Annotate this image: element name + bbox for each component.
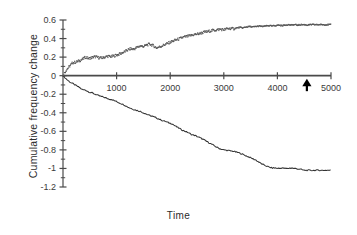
x-axis-tick-labels: 10002000300040005000 [0, 0, 357, 235]
x-tick-label: 4000 [257, 83, 297, 93]
chart-figure: Cumulative frequency change Time 0.60.40… [0, 0, 357, 235]
x-tick-label: 3000 [204, 83, 244, 93]
x-tick-label: 2000 [150, 83, 190, 93]
x-tick-label: 5000 [311, 83, 351, 93]
x-tick-label: 1000 [97, 83, 137, 93]
